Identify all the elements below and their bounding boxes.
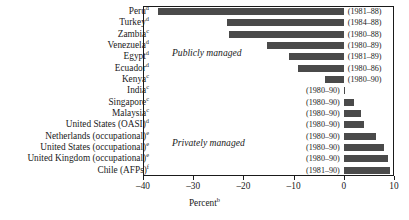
period-label: (1980–90) bbox=[296, 131, 340, 142]
category-label-text: United States (occupational) bbox=[40, 142, 146, 152]
table-row: United States (OASI)d(1980–90) bbox=[0, 119, 409, 130]
category-label: Indiac bbox=[0, 85, 149, 96]
period-label: (1980–90) bbox=[296, 153, 340, 164]
category-label: United States (OASI)d bbox=[0, 119, 149, 130]
category-label: Ecuadord bbox=[0, 63, 149, 74]
category-label: Turkeyd bbox=[0, 17, 149, 28]
period-label: (1980–90) bbox=[296, 119, 340, 130]
period-label: (1980–86) bbox=[348, 63, 382, 74]
period-label: (1980–90) bbox=[296, 108, 340, 119]
table-row: Singaporec(1980–90) bbox=[0, 97, 409, 108]
bar bbox=[325, 76, 344, 83]
period-label: (1980–88) bbox=[348, 29, 382, 40]
category-footnote-mark: e bbox=[146, 151, 149, 158]
category-label-text: Kenya bbox=[122, 74, 146, 84]
table-row: Turkeyd(1984–88) bbox=[0, 17, 409, 28]
table-row: Chile (AFPs)f(1981–90) bbox=[0, 165, 409, 176]
category-label: Kenyac bbox=[0, 74, 149, 85]
category-label: Zambiac bbox=[0, 29, 149, 40]
x-axis-tick-label: –30 bbox=[173, 181, 213, 191]
category-footnote-mark: e bbox=[146, 140, 149, 147]
category-label: Perud bbox=[0, 6, 149, 17]
table-row: Perud(1981–88) bbox=[0, 6, 409, 17]
period-label: (1984–88) bbox=[348, 17, 382, 28]
category-label-text: Venezuela bbox=[108, 40, 146, 50]
group-label-publicly-managed: Publicly managed bbox=[172, 47, 242, 58]
category-footnote-mark: d bbox=[146, 4, 149, 11]
x-axis-tick-label: 10 bbox=[374, 181, 409, 191]
x-axis-tick bbox=[143, 176, 144, 180]
period-label: (1980–90) bbox=[296, 97, 340, 108]
table-row: Zambiac(1980–88) bbox=[0, 29, 409, 40]
category-label: Chile (AFPs)f bbox=[0, 165, 149, 176]
x-axis-title: Percentb bbox=[0, 198, 409, 208]
bar bbox=[344, 121, 364, 128]
bar bbox=[289, 53, 344, 60]
period-label: (1980–90) bbox=[348, 74, 382, 85]
bar bbox=[298, 65, 344, 72]
category-label: Egyptd bbox=[0, 51, 149, 62]
category-footnote-mark: d bbox=[146, 117, 149, 124]
category-label-text: United States (OASI) bbox=[66, 119, 146, 129]
period-label: (1980–90) bbox=[296, 85, 340, 96]
category-label: Singaporec bbox=[0, 97, 149, 108]
category-label-text: Peru bbox=[129, 6, 146, 16]
bar bbox=[344, 167, 390, 174]
category-label: Malaysiac bbox=[0, 108, 149, 119]
period-label: (1980–89) bbox=[348, 40, 382, 51]
category-label-text: Zambia bbox=[118, 29, 146, 39]
category-footnote-mark: f bbox=[147, 163, 149, 170]
category-label-text: Netherlands (occupational) bbox=[45, 131, 146, 141]
period-label: (1981–89) bbox=[348, 51, 382, 62]
category-footnote-mark: d bbox=[146, 49, 149, 56]
bar bbox=[344, 133, 377, 140]
x-axis-tick bbox=[344, 176, 345, 180]
category-label: United Kingdom (occupational)e bbox=[0, 153, 149, 164]
group-label-privately-managed: Privately managed bbox=[172, 137, 245, 148]
category-label-text: Chile (AFPs) bbox=[98, 165, 147, 175]
x-axis-tick bbox=[294, 176, 295, 180]
category-footnote-mark: d bbox=[146, 38, 149, 45]
bar bbox=[344, 144, 384, 151]
x-axis-tick bbox=[193, 176, 194, 180]
category-footnote-mark: c bbox=[146, 72, 149, 79]
bar bbox=[344, 87, 346, 94]
period-label: (1981–90) bbox=[296, 165, 340, 176]
x-axis-tick-label: –10 bbox=[274, 181, 314, 191]
bar bbox=[344, 99, 354, 106]
period-label: (1981–88) bbox=[348, 6, 382, 17]
table-row: Kenyac(1980–90) bbox=[0, 74, 409, 85]
category-label-text: India bbox=[127, 85, 146, 95]
category-label-text: Malaysia bbox=[112, 108, 146, 118]
table-row: United Kingdom (occupational)e(1980–90) bbox=[0, 153, 409, 164]
category-label-text: Ecuador bbox=[115, 63, 146, 73]
bar bbox=[344, 110, 362, 117]
pension-returns-bar-chart: Perud(1981–88)Turkeyd(1984–88)Zambiac(19… bbox=[0, 0, 409, 220]
period-label: (1980–90) bbox=[296, 142, 340, 153]
bar bbox=[344, 155, 388, 162]
category-label-text: Singapore bbox=[108, 97, 146, 107]
x-axis-tick-label: –40 bbox=[123, 181, 163, 191]
category-label-text: Egypt bbox=[124, 51, 146, 61]
category-footnote-mark: c bbox=[146, 27, 149, 34]
bar bbox=[227, 19, 344, 26]
x-axis-title-text: Percent bbox=[189, 198, 217, 208]
category-footnote-mark: e bbox=[146, 129, 149, 136]
category-label-text: United Kingdom (occupational) bbox=[27, 153, 146, 163]
category-footnote-mark: c bbox=[146, 106, 149, 113]
x-axis-tick-label: –20 bbox=[223, 181, 263, 191]
x-axis-tick bbox=[394, 176, 395, 180]
x-axis-tick bbox=[243, 176, 244, 180]
table-row: Indiac(1980–90) bbox=[0, 85, 409, 96]
category-footnote-mark: d bbox=[146, 15, 149, 22]
bar bbox=[158, 8, 344, 15]
category-footnote-mark: d bbox=[146, 61, 149, 68]
table-row: Malaysiac(1980–90) bbox=[0, 108, 409, 119]
category-label-text: Turkey bbox=[119, 17, 146, 27]
category-footnote-mark: c bbox=[146, 83, 149, 90]
x-axis-title-superscript: b bbox=[217, 196, 220, 203]
category-label: Netherlands (occupational)e bbox=[0, 131, 149, 142]
category-label: United States (occupational)e bbox=[0, 142, 149, 153]
category-label: Venezuelad bbox=[0, 40, 149, 51]
bar bbox=[229, 31, 343, 38]
